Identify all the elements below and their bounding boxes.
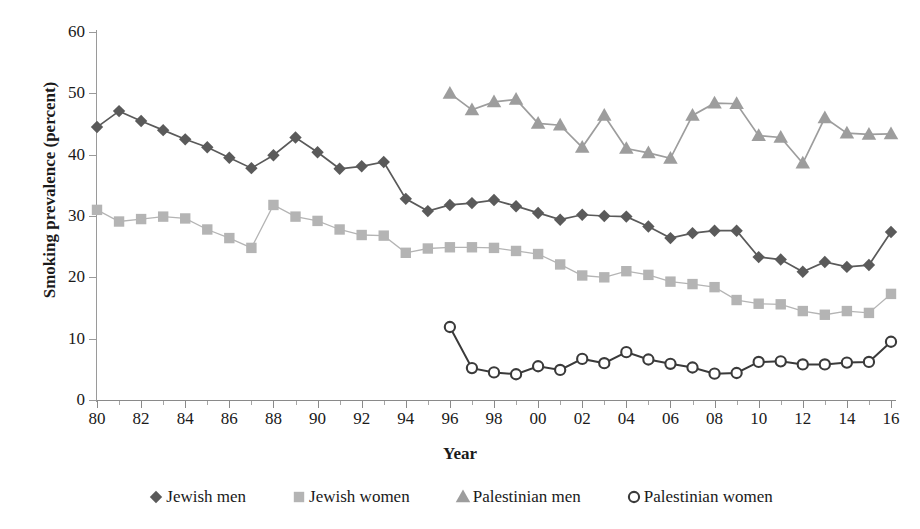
circle-data-marker [864,357,874,367]
square-data-marker [776,299,786,309]
diamond-data-marker [686,227,698,239]
diamond-data-marker [422,205,434,217]
circle-data-marker [886,337,896,347]
triangle-data-marker [818,110,833,123]
circle-data-marker [709,369,719,379]
triangle-data-marker [509,92,524,105]
circle-data-marker [467,363,477,373]
circle-data-marker [842,357,852,367]
diamond-data-marker [113,105,125,117]
diamond-data-marker [245,162,257,174]
legend-item-jewish-men[interactable]: Jewish men [147,487,246,507]
square-data-marker [92,205,102,215]
square-data-marker [555,259,565,269]
square-data-marker [246,243,256,253]
square-data-marker [136,214,146,224]
diamond-data-marker [775,253,787,265]
circle-data-marker [533,361,543,371]
triangle-data-marker [455,490,470,503]
circle-data-marker [798,359,808,369]
diamond-data-marker [223,152,235,164]
circle-data-marker [776,356,786,366]
chart-legend: Jewish menJewish womenPalestinian menPal… [0,487,920,507]
legend-item-palestinian-women[interactable]: Palestinian women [625,487,773,507]
diamond-data-marker [444,199,456,211]
diamond-data-marker [488,194,500,206]
square-data-marker [356,230,366,240]
square-data-marker [864,308,874,318]
diamond-data-marker [466,197,478,209]
triangle-data-marker [840,126,855,139]
triangle-data-marker [685,108,700,121]
diamond-data-marker [355,160,367,172]
diamond-data-marker [708,225,720,237]
triangle-data-marker [619,141,634,154]
circle-data-marker [732,368,742,378]
legend-label: Palestinian men [473,487,581,507]
square-data-marker [820,310,830,320]
legend-item-jewish-women[interactable]: Jewish women [290,487,410,507]
diamond-data-marker [863,259,875,271]
triangle-marker-icon [454,488,472,506]
square-data-marker [379,230,389,240]
triangle-data-marker [729,96,744,109]
square-data-marker [842,306,852,316]
square-data-marker [489,243,499,253]
diamond-data-marker [532,207,544,219]
square-data-marker [599,272,609,282]
square-data-marker [467,242,477,252]
diamond-data-marker [620,210,632,222]
diamond-data-marker [179,133,191,145]
diamond-data-marker [378,156,390,168]
circle-data-marker [489,367,499,377]
diamond-data-marker [150,491,162,503]
square-data-marker [114,216,124,226]
diamond-data-marker [642,220,654,232]
square-data-marker [158,211,168,221]
diamond-data-marker [400,193,412,205]
circle-data-marker [754,357,764,367]
square-data-marker [334,224,344,234]
square-data-marker [753,299,763,309]
series-line [97,205,891,315]
square-data-marker [577,270,587,280]
triangle-data-marker [597,108,612,121]
circle-data-marker [665,359,675,369]
diamond-data-marker [598,210,610,222]
square-data-marker [180,213,190,223]
square-data-marker [423,243,433,253]
diamond-data-marker [885,226,897,238]
square-data-marker [202,224,212,234]
square-data-marker [268,200,278,210]
diamond-data-marker [510,200,522,212]
diamond-data-marker [576,209,588,221]
circle-data-marker [511,369,521,379]
circle-data-marker [599,358,609,368]
diamond-data-marker [797,266,809,278]
legend-item-palestinian-men[interactable]: Palestinian men [454,487,581,507]
diamond-marker-icon [147,488,165,506]
square-data-marker [709,282,719,292]
square-data-marker [665,276,675,286]
diamond-data-marker [664,232,676,244]
circle-data-marker [555,365,565,375]
x-axis-title: Year [0,444,920,464]
diamond-data-marker [135,115,147,127]
square-data-marker [401,248,411,258]
square-data-marker [643,270,653,280]
square-data-marker [511,246,521,256]
diamond-data-marker [311,146,323,158]
diamond-data-marker [157,124,169,136]
diamond-data-marker [554,213,566,225]
square-data-marker [445,242,455,252]
square-data-marker [687,279,697,289]
diamond-data-marker [201,141,213,153]
legend-label: Palestinian women [644,487,773,507]
circle-data-marker [621,347,631,357]
square-marker-icon [290,488,308,506]
series-palestinian-men [443,86,899,169]
square-data-marker [886,289,896,299]
triangle-data-marker [707,96,722,109]
square-data-marker [621,266,631,276]
circle-marker-icon [625,488,643,506]
